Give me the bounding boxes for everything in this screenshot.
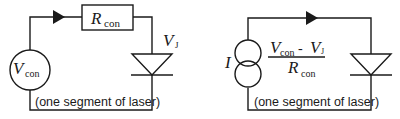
formula-minus: - [298,41,303,56]
left-caption: (one segment of laser) [35,95,160,109]
resistor-label: R [90,9,102,28]
laser-diode-icon [131,54,173,75]
junction-voltage-subscript: J [175,40,179,50]
current-direction-arrow-icon [306,11,318,25]
laser-diode-icon [350,54,392,75]
current-source-label: I [224,53,232,72]
resistor-subscript: con [104,17,120,29]
current-formula: V con - V J R con [268,38,325,79]
circuit-diagram: R con V con V J (one segment of laser) I… [0,0,400,119]
current-source-icon [235,40,261,87]
formula-numerator-v2-sub: J [321,47,324,56]
source-subscript: con [25,68,39,79]
current-direction-arrow-icon [53,10,65,24]
right-caption: (one segment of laser) [254,95,379,109]
right-circuit: I V con - V J R con (one segment of lase… [224,11,392,110]
left-circuit: R con V con V J (one segment of laser) [10,5,179,110]
formula-denominator: R [287,58,299,77]
formula-denominator-sub: con [301,68,315,79]
